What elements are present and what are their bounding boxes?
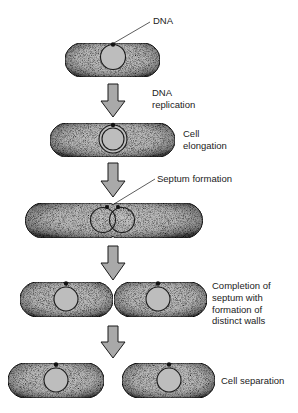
dna-attachment-point [167, 362, 171, 366]
binary-fission-diagram [0, 0, 298, 413]
completion-line-3: formation of [212, 304, 271, 316]
dna-leader-line [114, 22, 150, 43]
dna-chromosome-left [54, 287, 78, 311]
dna-chromosome-left [44, 368, 68, 392]
stage-cell-elongation [50, 123, 175, 157]
completion-of-septum-label: Completion of septum with formation of d… [212, 280, 271, 327]
dna-chromosome-circle [101, 45, 126, 70]
dna-replication-label: DNA replication [152, 87, 195, 110]
dna-label: DNA [153, 15, 173, 27]
cell-elongation-line-2: elongation [183, 140, 227, 152]
dna-chromosome-right [146, 287, 170, 311]
completion-line-2: septum with [212, 292, 271, 304]
dna-chromosome-right [157, 368, 181, 392]
dna-attachment-point [111, 123, 115, 127]
down-arrow-icon [101, 84, 125, 117]
dna-attachment-point-right [116, 205, 120, 209]
cell-separation-label: Cell separation [221, 375, 284, 387]
down-arrow-icon [101, 326, 125, 358]
down-arrow-icon [101, 246, 125, 280]
stage-cell-separation [8, 362, 215, 398]
dna-replication-line-2: replication [152, 99, 195, 111]
replicated-dna-outer [99, 125, 127, 153]
stage-completion-of-septum [20, 281, 207, 317]
stage-initial-cell [65, 22, 160, 77]
down-arrow-icon [101, 163, 125, 197]
dna-attachment-point [156, 281, 160, 285]
completion-line-4: distinct walls [212, 315, 271, 327]
completion-line-1: Completion of [212, 280, 271, 292]
septum-formation-label: Septum formation [157, 173, 232, 185]
dna-attachment-point [64, 281, 68, 285]
cell-elongation-line-1: Cell [183, 128, 227, 140]
dna-replication-line-1: DNA [152, 87, 195, 99]
dna-attachment-point-left [105, 205, 109, 209]
cell-elongation-label: Cell elongation [183, 128, 227, 151]
dividing-cell [26, 203, 203, 238]
dna-attachment-point [54, 362, 58, 366]
